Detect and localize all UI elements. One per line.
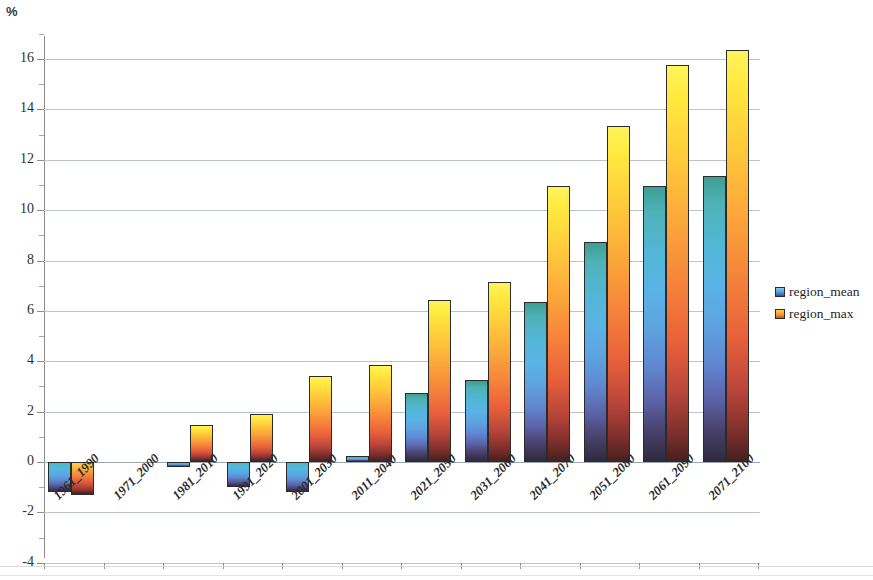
- y-axis-tick-label: 6: [4, 302, 34, 318]
- y-axis-tick: [37, 160, 44, 161]
- scan-artifact-line: [0, 566, 873, 567]
- bar-region_mean-2031_2060: [465, 380, 488, 462]
- y-axis-tick: [37, 261, 44, 262]
- y-axis-tick: [37, 512, 44, 513]
- y-axis-tick-label: 14: [4, 100, 34, 116]
- y-axis-tick-label: 4: [4, 352, 34, 368]
- y-axis-tick: [37, 462, 44, 463]
- scan-artifact-line: [0, 575, 873, 576]
- bar-region_max-2031_2060: [488, 282, 511, 462]
- bar-region_mean-1981_2010: [167, 462, 190, 467]
- y-axis-tick-label: 12: [4, 151, 34, 167]
- bar-chart: % -4-20246810121416 1961_19901971_200019…: [0, 0, 873, 580]
- y-axis-tick: [37, 563, 44, 564]
- legend-item-region-max: region_max: [775, 303, 859, 325]
- legend-label: region_mean: [789, 284, 859, 300]
- gridline: [44, 109, 760, 110]
- bar-region_mean-2011_2040: [346, 456, 369, 462]
- y-axis-tick: [37, 109, 44, 110]
- y-axis-tick-label: -2: [4, 503, 34, 519]
- bar-region_mean-2021_2050: [405, 393, 428, 462]
- gridline: [44, 59, 760, 60]
- y-axis-tick-label: -4: [4, 554, 34, 570]
- y-axis-tick: [37, 311, 44, 312]
- bar-region_max-2001_2030: [309, 376, 332, 462]
- legend-swatch-icon: [775, 309, 785, 319]
- bar-region_mean-2071_2100: [703, 176, 726, 462]
- y-axis-tick: [37, 412, 44, 413]
- bar-region_max-2071_2100: [726, 50, 749, 462]
- y-axis-tick: [37, 59, 44, 60]
- y-axis-unit-label: %: [6, 4, 18, 19]
- y-axis-tick-label: 10: [4, 201, 34, 217]
- bar-region_max-2021_2050: [428, 300, 451, 462]
- bar-region_max-2061_2090: [666, 65, 689, 462]
- legend-label: region_max: [789, 306, 853, 322]
- legend-item-region-mean: region_mean: [775, 281, 859, 303]
- bar-region_mean-2041_2070: [524, 302, 547, 462]
- y-axis-tick: [37, 361, 44, 362]
- bar-region_max-2051_2080: [607, 126, 630, 462]
- legend-swatch-icon: [775, 287, 785, 297]
- gridline: [44, 512, 760, 513]
- gridline: [44, 160, 760, 161]
- plot-area: [44, 59, 760, 553]
- bar-region_max-2041_2070: [547, 186, 570, 462]
- y-axis-tick: [37, 210, 44, 211]
- bar-region_mean-2061_2090: [643, 186, 666, 462]
- y-axis-tick-label: 0: [4, 453, 34, 469]
- legend: region_mean region_max: [775, 281, 859, 325]
- y-axis-minor-tick: [39, 34, 44, 35]
- gridline: [44, 563, 760, 564]
- bar-region_mean-2051_2080: [584, 242, 607, 462]
- y-axis-tick-label: 16: [4, 50, 34, 66]
- y-axis-tick-label: 8: [4, 252, 34, 268]
- y-axis-tick-label: 2: [4, 403, 34, 419]
- bar-region_max-2011_2040: [369, 365, 392, 462]
